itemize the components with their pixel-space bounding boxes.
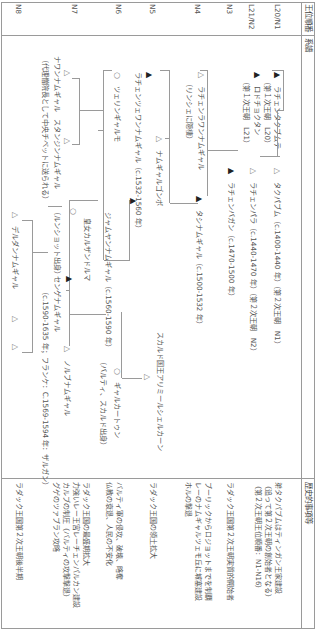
person-name: ノルブナムギャル [63, 360, 72, 416]
open-triangle-icon: △ [273, 168, 282, 174]
person-name: ラチェンツェワンナムギャル（c.1532-1560 年） [134, 72, 143, 232]
filled-triangle-icon: ▲ [65, 276, 74, 282]
order-label: N5 [148, 4, 157, 14]
person-name: ツェリンギャルモ [113, 86, 122, 142]
person-name: ラチェンラワンナムギャル [197, 86, 206, 170]
open-triangle-icon: △ [11, 344, 20, 350]
connector [165, 138, 170, 139]
event-line: ホルの撃退 [184, 482, 193, 517]
connector [122, 378, 142, 379]
open-triangle-icon: △ [63, 70, 72, 76]
connector [80, 110, 104, 111]
connector [104, 70, 112, 71]
connector [70, 314, 106, 315]
order-label: N6 [114, 4, 123, 14]
open-circle-icon: ○ [69, 208, 78, 215]
filled-triangle-icon: ▲ [227, 168, 236, 174]
connector [69, 310, 70, 346]
genealogy-chart: 王位順番 系譜 歴史的事項等 L20/N1 L21/N2 N3 N4 N5 N6… [0, 0, 318, 633]
connector [79, 78, 80, 144]
person-name: ラチェンバガン（c.1470-1500 年） [227, 182, 236, 300]
connector [200, 70, 208, 71]
filled-triangle-icon: ▲ [145, 72, 154, 78]
event-line: 弟タクパブムはティンガン王家建設 [274, 482, 283, 594]
person-name: センゲナムギャル [53, 276, 62, 332]
event-line: レーのナムギャルツェモ丘に城塞建設 [194, 482, 203, 601]
event-line: 力強いレー王宮レーチェンパルカン建設 [72, 482, 81, 608]
connector [22, 352, 33, 353]
connector [207, 150, 208, 196]
open-triangle-icon: △ [249, 168, 258, 174]
person-note: （第１次王朝 L21） [242, 78, 251, 147]
connector [160, 70, 170, 71]
filled-triangle-icon: ▲ [129, 198, 138, 204]
header-genealogy: 系譜 [304, 38, 313, 52]
event-line: カルブの制圧（バルティの攻撃撃退） [62, 482, 71, 601]
connector [70, 200, 98, 201]
person-name: ジャムヤンナムギャル（c.1560-1590 年） [104, 212, 113, 351]
event-line: グゲのツァプラン攻略 [52, 482, 61, 552]
event-line: ラダック王国の最盛期拡大 [82, 482, 91, 566]
person-name: ロドチョクタン [253, 86, 262, 135]
connector [129, 200, 130, 260]
filled-triangle-icon: ▲ [273, 72, 282, 78]
event-line: （第２次王朝王位順番：N1-N16） [254, 482, 263, 592]
person-name: ナワンナムギャル スタンジンナムギャル [53, 56, 62, 189]
order-label: N3 [225, 4, 234, 14]
order-label: L21/N2 [247, 4, 256, 30]
order-label: N8 [14, 4, 23, 14]
event-line: ラダック王国の領土拡大 [149, 482, 158, 559]
person-name: 皇女カルザンドルマ [83, 218, 92, 281]
open-triangle-icon: △ [143, 374, 152, 380]
person-name: デルダンナムギャル [11, 226, 20, 289]
connector [72, 144, 80, 145]
person-name: ギャルカートゥン [113, 382, 122, 438]
connector [260, 156, 280, 157]
connector [170, 203, 198, 204]
order-label: N7 [70, 4, 79, 14]
event-line: プーリックからロジョットまでを制覇 [204, 482, 213, 601]
open-triangle-icon: △ [197, 72, 206, 78]
order-column-divider [2, 35, 315, 36]
event-line: ラダック王国第２次王朝後半期 [15, 482, 24, 580]
event-line: （追って第２次王朝の創始者となる） [264, 482, 273, 601]
header-order: 王位順番 [304, 4, 313, 32]
person-name: タシナムギャル（c.1500-1532 年） [195, 210, 204, 328]
header-events: 歴史的事項等 [304, 482, 313, 524]
open-triangle-icon: △ [63, 138, 72, 144]
person-note: （代理僧院長として中央チベットに送られる） [41, 56, 50, 203]
open-triangle-icon: △ [63, 346, 72, 352]
open-circle-icon: ○ [113, 72, 122, 79]
header-divider [301, 2, 302, 628]
connector [207, 70, 208, 150]
person-note: （c.1590-1635 年；フランケ：C.1569-1594 年：ザルガン） [41, 288, 50, 489]
connector [283, 70, 284, 110]
order-label: N4 [193, 4, 202, 14]
person-note: （ルンショット出身） [53, 208, 62, 278]
open-triangle-icon: △ [11, 212, 20, 218]
person-note: （リンシェに隠棲） [185, 80, 194, 143]
person-name: タクパブム（c.1400-1440 年）（第２次王朝 N1） [273, 182, 282, 348]
connector [208, 150, 238, 151]
filled-triangle-icon: ▲ [253, 72, 262, 78]
open-circle-icon: ○ [113, 368, 122, 375]
connector [48, 206, 62, 207]
connector [33, 252, 48, 253]
person-name: ナムギャルゴンボ [155, 150, 164, 206]
open-triangle-icon: △ [155, 136, 164, 142]
connector [277, 110, 278, 156]
event-line: ラダック王国第２次王朝実質的開始者 [226, 482, 235, 601]
person-note: （第１次王朝 L20） [263, 78, 272, 147]
event-line: 仏教の衰退、人民の不安化 [105, 482, 114, 566]
filled-triangle-icon: ▲ [195, 196, 204, 202]
order-label: L20/N1 [273, 4, 282, 30]
person-name: スカルド国王アリミールシェルカーン [156, 332, 165, 451]
connector [98, 130, 104, 131]
open-triangle-icon: △ [11, 316, 20, 322]
person-note: （バルティ、スカルド出身） [99, 358, 108, 449]
connector [32, 220, 33, 352]
connector [66, 290, 70, 291]
connector [169, 70, 170, 203]
person-name: ラチェンパラ（c.1440-1470 年）（第２次王朝 N2） [249, 182, 258, 355]
event-line: バルティ軍の侵攻、破壊、略奪 [115, 482, 124, 580]
